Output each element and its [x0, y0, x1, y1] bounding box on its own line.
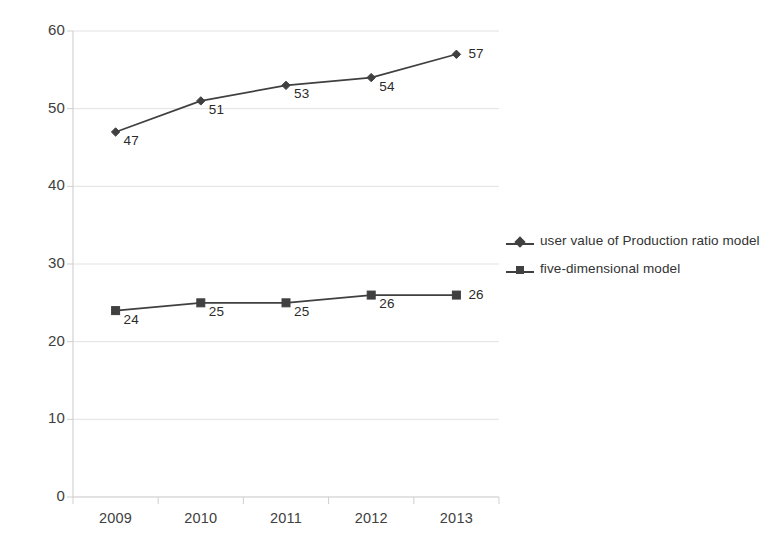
- data-point-label: 51: [209, 102, 224, 117]
- data-point-marker: [282, 81, 290, 89]
- data-point-label: 26: [379, 296, 394, 311]
- chart-legend: user value of Production ratio modelfive…: [506, 233, 772, 289]
- data-point-label: 53: [294, 86, 309, 101]
- data-point-marker: [112, 307, 120, 315]
- legend-key-marker: [516, 266, 524, 274]
- data-point-label: 24: [124, 312, 139, 327]
- x-axis-tick-label: 2013: [413, 510, 499, 526]
- y-axis-tick-label: 30: [21, 254, 65, 271]
- y-axis-tick-label: 10: [21, 409, 65, 426]
- data-point-marker: [367, 291, 375, 299]
- data-point-label: 54: [379, 79, 394, 94]
- x-axis-tick-label: 2010: [158, 510, 244, 526]
- y-axis-tick-label: 0: [21, 487, 65, 504]
- x-axis-tick-label: 2011: [243, 510, 329, 526]
- y-axis-tick-label: 60: [21, 21, 65, 38]
- data-point-label: 26: [468, 287, 483, 302]
- data-point-marker: [197, 299, 205, 307]
- data-point-marker: [452, 50, 460, 58]
- data-point-marker: [452, 291, 460, 299]
- square-marker-icon: [506, 263, 534, 280]
- data-point-label: 57: [468, 46, 483, 61]
- legend-entry-2[interactable]: five-dimensional model: [506, 261, 772, 280]
- y-axis-tick-label: 50: [21, 99, 65, 116]
- x-axis-tick-label: 2012: [328, 510, 414, 526]
- data-point-label: 25: [209, 304, 224, 319]
- y-axis-tick-label: 40: [21, 176, 65, 193]
- y-axis-tick-label: 20: [21, 332, 65, 349]
- data-point-marker: [111, 128, 119, 136]
- data-point-marker: [197, 97, 205, 105]
- data-point-marker: [367, 73, 375, 81]
- data-point-label: 25: [294, 304, 309, 319]
- legend-label: five-dimensional model: [540, 261, 680, 278]
- line-chart: 6050403020100 20092010201120122013 47515…: [0, 0, 780, 556]
- series-line-1: [116, 54, 457, 132]
- x-axis-tick-label: 2009: [73, 510, 159, 526]
- data-point-label: 47: [124, 133, 139, 148]
- legend-key-marker: [514, 236, 525, 247]
- diamond-marker-icon: [506, 235, 534, 252]
- legend-entry-1[interactable]: user value of Production ratio model: [506, 233, 772, 252]
- legend-label: user value of Production ratio model: [540, 233, 760, 250]
- data-point-marker: [282, 299, 290, 307]
